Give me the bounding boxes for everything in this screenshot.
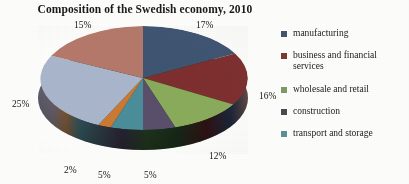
pct-label-other-25: 25%: [12, 99, 29, 109]
legend-swatch-icon: [281, 31, 287, 37]
legend-swatch-icon: [281, 109, 287, 115]
legend-swatch-icon: [281, 87, 287, 93]
pct-label-transport: 5%: [98, 170, 111, 180]
pie-slices-svg: [38, 26, 248, 130]
legend-label: manufacturing: [293, 28, 348, 39]
legend-item-wholesale-and-retail[interactable]: wholesale and retail: [281, 84, 409, 95]
legend-swatch-icon: [281, 131, 287, 137]
pct-label-other-2: 2%: [64, 165, 77, 175]
legend-item-construction[interactable]: construction: [281, 106, 409, 117]
chart-page: Composition of the Swedish economy, 2010: [0, 0, 409, 184]
legend-label: wholesale and retail: [293, 84, 369, 95]
legend-label: business and financial services: [293, 50, 409, 72]
pie-stage: [38, 26, 248, 154]
page-title: Composition of the Swedish economy, 2010: [0, 3, 290, 15]
legend-label: transport and storage: [293, 128, 373, 139]
legend-item-manufacturing[interactable]: manufacturing: [281, 28, 409, 39]
legend-swatch-icon: [281, 53, 287, 59]
pie-chart: 17% 16% 12% 5% 5% 2% 25% 15%: [0, 18, 278, 184]
chart-legend: manufacturing business and financial ser…: [281, 28, 409, 150]
pct-label-wholesale: 12%: [209, 151, 226, 161]
pie-top-face: [38, 26, 248, 130]
pct-label-construction: 5%: [144, 170, 157, 180]
pct-label-manufacturing: 17%: [196, 20, 213, 30]
legend-item-transport-and-storage[interactable]: transport and storage: [281, 128, 409, 139]
legend-label: construction: [293, 106, 340, 117]
legend-item-business-and-financial-services[interactable]: business and financial services: [281, 50, 409, 72]
pct-label-other-15: 15%: [74, 20, 91, 30]
pct-label-business: 16%: [259, 91, 276, 101]
